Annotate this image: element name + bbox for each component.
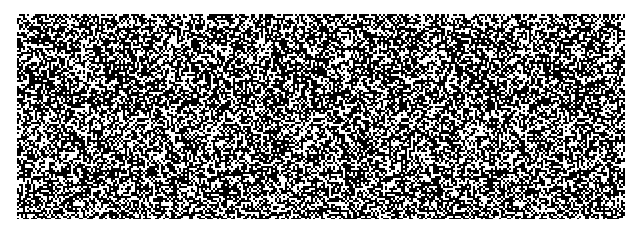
image-frame [0, 0, 641, 233]
stereogram-noise-pattern [17, 14, 625, 219]
